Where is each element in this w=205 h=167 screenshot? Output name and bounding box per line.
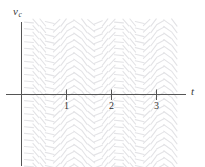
- slope-dash: [82, 78, 87, 85]
- slope-dash: [135, 159, 144, 161]
- slope-dash: [45, 146, 54, 148]
- slope-dash: [123, 157, 129, 164]
- slope-dash: [123, 85, 129, 92]
- slope-dash: [151, 58, 156, 65]
- slope-dash: [67, 132, 75, 136]
- slope-dash: [123, 32, 129, 39]
- slope-dash: [114, 114, 123, 115]
- slope-dash: [151, 124, 156, 131]
- slope-dash: [61, 117, 66, 124]
- slope-dash: [67, 112, 75, 116]
- slope-dash: [114, 133, 123, 134]
- slope-dash: [53, 39, 59, 45]
- slope-dash: [67, 151, 75, 155]
- x-axis-tick-label: 3: [150, 101, 164, 111]
- slope-dash: [172, 156, 177, 163]
- slope-dash: [61, 19, 66, 26]
- slope-dash: [130, 26, 136, 33]
- slope-dash: [45, 28, 54, 30]
- slope-dash: [33, 78, 39, 85]
- slope-dash: [102, 130, 108, 137]
- slope-dash: [94, 165, 102, 167]
- slope-dash: [40, 52, 46, 59]
- slope-dash: [40, 19, 46, 26]
- slope-dash: [33, 137, 39, 144]
- slope-dash: [94, 47, 102, 50]
- slope-dash: [157, 158, 165, 162]
- slope-dash: [82, 130, 87, 137]
- slope-dash: [94, 112, 102, 115]
- slope-dash: [157, 145, 165, 149]
- slope-dash: [82, 71, 87, 78]
- slope-dash: [135, 146, 144, 148]
- slope-dash: [143, 118, 149, 124]
- slope-dash: [33, 52, 39, 59]
- x-axis-label: t: [191, 86, 194, 97]
- y-axis-label: vc: [13, 6, 21, 17]
- slope-dash: [82, 124, 87, 131]
- slope-dash: [74, 66, 81, 71]
- slope-dash: [40, 78, 46, 85]
- slope-dash: [45, 100, 54, 102]
- slope-dash: [33, 143, 39, 150]
- slope-dash: [33, 111, 39, 118]
- slope-dash: [67, 40, 75, 44]
- slope-dash: [82, 97, 87, 104]
- slope-dash: [102, 137, 108, 144]
- slope-dash: [102, 143, 108, 150]
- slope-dash: [143, 144, 149, 150]
- slope-dash: [135, 120, 144, 122]
- slope-dash: [143, 163, 149, 167]
- slope-dash: [24, 61, 33, 62]
- slope-dash: [94, 119, 102, 122]
- slope-dash: [172, 39, 177, 46]
- slope-dash: [151, 156, 156, 163]
- slope-dash: [61, 58, 66, 65]
- slope-dash: [24, 127, 33, 128]
- slope-dash: [74, 33, 81, 38]
- slope-dash: [164, 131, 171, 136]
- slope-dash: [164, 118, 171, 123]
- slope-dash: [114, 146, 123, 147]
- slope-dash: [74, 125, 81, 130]
- slope-dash: [130, 130, 136, 137]
- slope-dash: [157, 33, 165, 37]
- slope-dash: [33, 85, 39, 92]
- slope-dash: [82, 163, 87, 167]
- slope-dash: [123, 45, 129, 52]
- slope-dash: [114, 74, 123, 75]
- slope-dash: [123, 26, 129, 33]
- slope-dash: [172, 97, 177, 104]
- slope-dash: [61, 163, 66, 167]
- slope-dash: [74, 26, 81, 31]
- slope-dash: [24, 88, 33, 89]
- slope-dash: [74, 131, 81, 136]
- slope-dash: [172, 45, 177, 52]
- slope-dash: [40, 111, 46, 118]
- slope-dash: [164, 98, 171, 103]
- slope-dash: [172, 32, 177, 39]
- slope-dash: [123, 98, 129, 105]
- slope-dash: [135, 67, 144, 69]
- slope-dash: [33, 71, 39, 78]
- slope-dash: [102, 150, 108, 157]
- slope-dash: [45, 21, 54, 23]
- slope-dash: [157, 20, 165, 24]
- slope-dash: [45, 41, 54, 43]
- slope-dash: [172, 52, 177, 59]
- slope-dash: [151, 52, 156, 59]
- slope-dash: [172, 124, 177, 131]
- slope-dash: [135, 113, 144, 115]
- slope-dash: [143, 72, 149, 78]
- slope-dash: [40, 45, 46, 52]
- slope-dash: [172, 65, 177, 72]
- slope-dash: [114, 55, 123, 56]
- slope-dash: [130, 117, 136, 124]
- slope-dash: [53, 137, 59, 143]
- slope-dash: [40, 117, 46, 124]
- slope-dash: [151, 25, 156, 32]
- slope-dash: [53, 157, 59, 163]
- slope-dash: [67, 86, 75, 90]
- slope-dash: [164, 66, 171, 71]
- slope-dash: [67, 27, 75, 31]
